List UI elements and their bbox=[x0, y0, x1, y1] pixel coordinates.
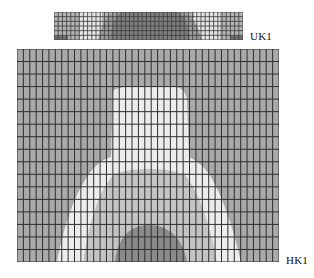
top-mesh-plot bbox=[54, 12, 243, 40]
bottom-mesh-plot bbox=[17, 49, 279, 262]
top-region-corner-right bbox=[230, 36, 243, 40]
label-hk1: HK1 bbox=[286, 255, 308, 266]
label-uk1: UK1 bbox=[250, 31, 272, 42]
bottom-mesh-hk1 bbox=[17, 49, 279, 262]
top-mesh-uk1 bbox=[54, 12, 243, 40]
top-region-corner-left bbox=[54, 36, 68, 40]
